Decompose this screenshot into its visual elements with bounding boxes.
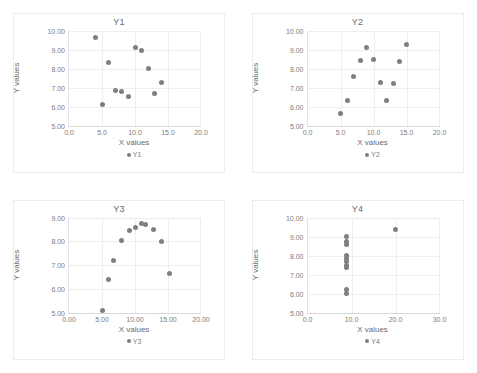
x-axis-tick-label: 10.0	[345, 313, 359, 323]
data-point[interactable]	[358, 58, 363, 63]
horizontal-gridline	[308, 256, 440, 257]
y-axis-tick-label: 9.00	[290, 47, 308, 54]
data-point[interactable]	[133, 225, 138, 230]
data-point[interactable]	[93, 35, 98, 40]
x-axis-tick-label: 0.0	[303, 126, 313, 136]
data-point[interactable]	[404, 42, 409, 47]
data-point[interactable]	[133, 45, 138, 50]
data-point[interactable]	[152, 91, 157, 96]
x-axis-tick-label: 20.0	[194, 126, 208, 136]
chart-title-y1: Y1	[14, 17, 224, 27]
plot-area-y1[interactable]: 5.006.007.008.009.0010.000.05.010.015.02…	[68, 31, 201, 127]
chart-title-y3: Y3	[14, 204, 224, 214]
data-point[interactable]	[167, 271, 172, 276]
data-point[interactable]	[106, 60, 111, 65]
y-axis-title-y1: Y values	[12, 48, 21, 108]
legend-label-y2: Y2	[371, 151, 380, 158]
chart-panel-y1[interactable]: Y1 5.006.007.008.009.0010.000.05.010.015…	[13, 13, 225, 173]
vertical-gridline	[168, 218, 169, 313]
chart-title-y4: Y4	[253, 204, 463, 214]
y-axis-tick-label: 9.00	[290, 233, 308, 240]
y-axis-tick-label: 7.00	[290, 85, 308, 92]
chart-panel-y3[interactable]: Y3 5.006.007.008.009.000.005.0010.0015.0…	[13, 200, 225, 360]
data-point[interactable]	[106, 277, 111, 282]
vertical-gridline	[102, 218, 103, 313]
data-point[interactable]	[127, 228, 132, 233]
data-point[interactable]	[378, 80, 383, 85]
y-axis-title-y3: Y values	[12, 235, 21, 295]
y-axis-tick-label: 9.00	[51, 47, 69, 54]
x-axis-title-y2: X values	[307, 138, 439, 147]
data-point[interactable]	[351, 74, 356, 79]
data-point[interactable]	[151, 227, 156, 232]
vertical-gridline	[135, 218, 136, 313]
horizontal-gridline	[308, 294, 440, 295]
y-axis-title-y4: Y values	[250, 235, 259, 295]
x-axis-tick-label: 20.0	[389, 313, 403, 323]
data-point[interactable]	[344, 242, 349, 247]
x-axis-tick-label: 15.0	[161, 126, 175, 136]
chart-cell-y3: Y3 5.006.007.008.009.000.005.0010.0015.0…	[0, 186, 238, 373]
plot-top-border	[308, 218, 440, 219]
vertical-gridline	[374, 31, 375, 126]
y-axis-tick-label: 6.00	[51, 104, 69, 111]
y-axis-tick-label: 10.00	[47, 28, 69, 35]
data-point[interactable]	[111, 258, 116, 263]
data-point[interactable]	[146, 66, 151, 71]
y-axis-tick-label: 7.00	[51, 85, 69, 92]
y-axis-tick-label: 7.00	[290, 271, 308, 278]
data-point[interactable]	[139, 48, 144, 53]
x-axis-tick-label: 15.00	[159, 313, 177, 323]
data-point[interactable]	[384, 98, 389, 103]
data-point[interactable]	[159, 239, 164, 244]
x-axis-tick-label: 20.00	[192, 313, 210, 323]
data-point[interactable]	[119, 89, 124, 94]
legend-marker-icon	[365, 153, 369, 157]
plot-right-border	[200, 31, 201, 126]
data-point[interactable]	[143, 222, 148, 227]
legend-marker-icon	[365, 339, 369, 343]
plot-area-y4[interactable]: 5.006.007.008.009.0010.000.010.020.030.0	[307, 218, 440, 314]
data-point[interactable]	[100, 102, 105, 107]
data-point[interactable]	[344, 265, 349, 270]
data-point[interactable]	[159, 80, 164, 85]
charts-grid: Y1 5.006.007.008.009.0010.000.05.010.015…	[0, 0, 477, 373]
x-axis-tick-label: 10.00	[126, 313, 144, 323]
y-axis-tick-label: 6.00	[290, 290, 308, 297]
y-axis-tick-label: 6.00	[290, 104, 308, 111]
x-axis-tick-label: 10.0	[367, 126, 381, 136]
chart-cell-y4: Y4 5.006.007.008.009.0010.000.010.020.03…	[238, 186, 477, 373]
x-axis-tick-label: 0.00	[62, 313, 76, 323]
y-axis-tick-label: 10.00	[286, 28, 308, 35]
legend-label-y4: Y4	[371, 338, 380, 345]
data-point[interactable]	[371, 57, 376, 62]
vertical-gridline	[168, 31, 169, 126]
legend-y1: Y1	[68, 151, 200, 158]
vertical-gridline	[102, 31, 103, 126]
data-point[interactable]	[345, 98, 350, 103]
x-axis-tick-label: 5.00	[95, 313, 109, 323]
data-point[interactable]	[113, 88, 118, 93]
data-point[interactable]	[397, 59, 402, 64]
data-point[interactable]	[393, 227, 398, 232]
chart-panel-y2[interactable]: Y2 5.006.007.008.009.0010.000.05.010.015…	[252, 13, 464, 173]
y-axis-tick-label: 7.00	[51, 262, 69, 269]
data-point[interactable]	[344, 291, 349, 296]
x-axis-tick-label: 10.0	[128, 126, 142, 136]
y-axis-tick-label: 8.00	[51, 238, 69, 245]
x-axis-tick-label: 20.0	[433, 126, 447, 136]
plot-area-y3[interactable]: 5.006.007.008.009.000.005.0010.0015.0020…	[68, 218, 201, 314]
plot-area-y2[interactable]: 5.006.007.008.009.0010.000.05.010.015.02…	[307, 31, 440, 127]
x-axis-tick-label: 30.0	[433, 313, 447, 323]
data-point[interactable]	[391, 81, 396, 86]
data-point[interactable]	[100, 308, 105, 313]
data-point[interactable]	[119, 238, 124, 243]
horizontal-gridline	[308, 275, 440, 276]
chart-panel-y4[interactable]: Y4 5.006.007.008.009.0010.000.010.020.03…	[252, 200, 464, 360]
data-point[interactable]	[126, 94, 131, 99]
y-axis-tick-label: 8.00	[290, 66, 308, 73]
data-point[interactable]	[338, 111, 343, 116]
x-axis-title-y1: X values	[68, 138, 200, 147]
chart-cell-y1: Y1 5.006.007.008.009.0010.000.05.010.015…	[0, 0, 238, 186]
y-axis-title-y2: Y values	[250, 48, 259, 108]
